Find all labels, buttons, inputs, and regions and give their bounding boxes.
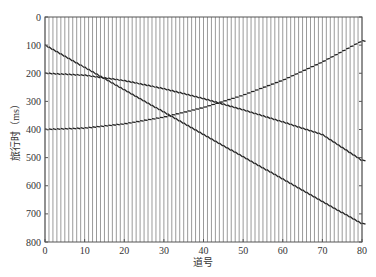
y-tick-label: 200 [26,68,41,79]
event-curves [45,40,366,224]
y-axis-title: 旅行时（ms） [9,99,21,161]
y-tick-label: 400 [26,124,41,135]
y-tick-label: 100 [26,40,41,51]
event-hyperbola-apex-right [45,40,366,129]
x-tick-label: 0 [43,245,48,256]
x-tick-label: 50 [238,245,248,256]
x-tick-label: 40 [199,245,209,256]
x-tick-label: 20 [119,245,129,256]
event-direct-linear-event [45,45,366,225]
y-tick-label: 0 [36,12,41,23]
x-tick-label: 70 [317,245,327,256]
trace-lines [45,17,362,242]
x-tick-label: 80 [357,245,367,256]
y-tick-label: 500 [26,152,41,163]
y-tick-label: 700 [26,208,41,219]
y-tick-label: 800 [26,237,41,248]
x-tick-label: 10 [80,245,90,256]
x-tick-label: 30 [159,245,169,256]
x-axis-title: 道号 [193,256,213,268]
y-tick-label: 600 [26,180,41,191]
event-hyperbola-apex-left [45,73,366,161]
seismic-gather-chart: 0100200300400500600700800 01020304050607… [0,0,376,277]
y-tick-label: 300 [26,96,41,107]
x-tick-label: 60 [278,245,288,256]
